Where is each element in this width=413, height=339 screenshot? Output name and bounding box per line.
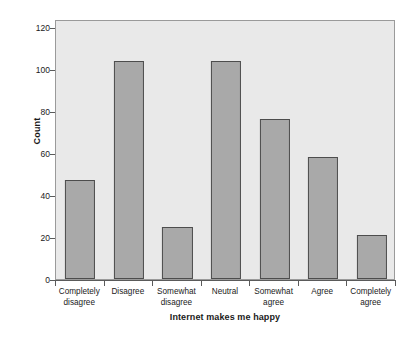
y-axis-tick-label: 0	[24, 274, 50, 286]
bar-slot	[250, 21, 299, 279]
x-axis-tick-label-line2: disagree	[148, 298, 205, 309]
bar-slot	[347, 21, 396, 279]
bar[interactable]	[357, 235, 387, 279]
x-axis-tick-label-line1: Somewhat	[157, 287, 196, 296]
x-axis-tick-label-line1: Completely	[59, 287, 100, 296]
y-axis-tick-label: 60	[24, 148, 50, 160]
x-axis-tick-mark	[298, 281, 299, 286]
x-axis-title: Internet makes me happy	[55, 312, 395, 322]
x-axis-tick-label-line1: Somewhat	[254, 287, 293, 296]
y-axis-tick-label: 120	[24, 22, 50, 34]
x-axis-tick-mark	[395, 281, 396, 286]
y-axis-tick-label: 100	[24, 64, 50, 76]
y-axis-tick-label: 20	[24, 232, 50, 244]
bars-layer	[56, 21, 394, 279]
x-axis-tick-label-line1: Neutral	[212, 287, 238, 296]
bar[interactable]	[260, 119, 290, 279]
y-axis-tick-label: 80	[24, 106, 50, 118]
x-axis-tick-mark	[201, 281, 202, 286]
x-axis-tick-mark	[152, 281, 153, 286]
y-axis-tick-label: 40	[24, 190, 50, 202]
x-axis-tick-label-line2: disagree	[51, 298, 108, 309]
bar-slot	[299, 21, 348, 279]
x-axis-line	[50, 280, 396, 281]
x-axis-tick-label-line1: Agree	[311, 287, 333, 296]
x-axis-tick-mark	[249, 281, 250, 286]
bar[interactable]	[308, 157, 338, 279]
x-axis-tick-label-line1: Completely	[350, 287, 391, 296]
bar-chart: Count 020406080100120 Completelydisagree…	[0, 0, 413, 339]
x-axis-tick-label: Completelyagree	[342, 287, 399, 308]
x-axis-tick-label-line2: agree	[245, 298, 302, 309]
x-axis-tick-label-line1: Disagree	[111, 287, 144, 296]
bar-slot	[202, 21, 251, 279]
bar[interactable]	[114, 61, 144, 279]
x-axis-tick-mark	[55, 281, 56, 286]
bar[interactable]	[162, 227, 192, 280]
bar[interactable]	[211, 61, 241, 279]
x-axis-tick-label-line2: agree	[342, 298, 399, 309]
bar[interactable]	[65, 180, 95, 279]
x-axis-tick-mark	[346, 281, 347, 286]
bar-slot	[105, 21, 154, 279]
bar-slot	[153, 21, 202, 279]
x-axis-tick-mark	[104, 281, 105, 286]
plot-area	[55, 20, 395, 280]
bar-slot	[56, 21, 105, 279]
